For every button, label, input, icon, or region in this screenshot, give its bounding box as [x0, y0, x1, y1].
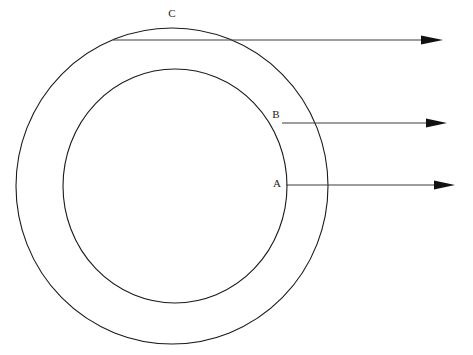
- callout-b-label: B: [272, 108, 279, 120]
- callout-a-arrowhead-icon: [434, 181, 455, 190]
- callout-c-label: C: [168, 7, 175, 19]
- callout-b-arrowhead-icon: [426, 119, 447, 128]
- callout-b: B: [272, 108, 447, 128]
- annulus-diagram: C B A: [0, 0, 473, 355]
- callout-c: C: [113, 7, 443, 45]
- diagram-canvas: C B A: [0, 0, 473, 355]
- callout-a: A: [273, 177, 455, 190]
- callout-a-label: A: [273, 177, 281, 189]
- inner-ring-circle: [63, 69, 287, 303]
- callout-c-arrowhead-icon: [421, 36, 443, 45]
